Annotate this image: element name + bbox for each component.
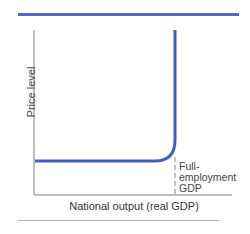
y-axis-label: Price level	[25, 62, 39, 122]
full-employment-annotation: Full- employment GDP	[179, 161, 236, 194]
x-axis-label: National output (real GDP)	[34, 200, 234, 212]
anno-line-3: GDP	[179, 183, 236, 194]
aggregate-supply-curve	[35, 30, 175, 161]
bottom-decorative-rule	[18, 220, 219, 221]
